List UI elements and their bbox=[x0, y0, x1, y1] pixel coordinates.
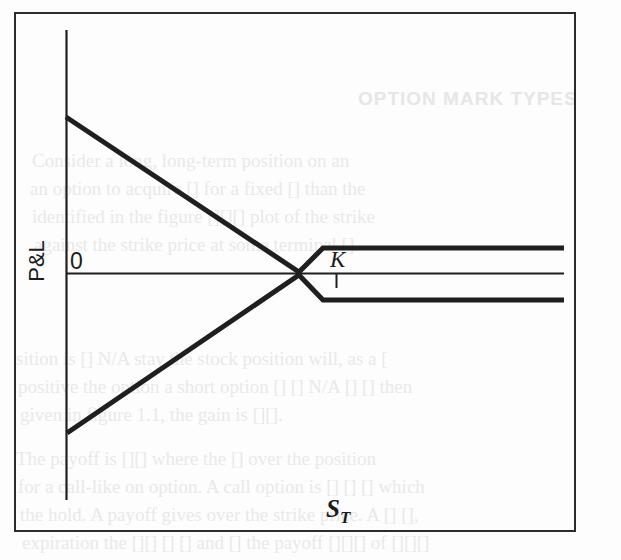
x-axis-label-main: S bbox=[326, 495, 340, 522]
x-axis-label-subscript: T bbox=[340, 508, 350, 527]
series-long-option-payoff bbox=[67, 275, 564, 433]
y-axis-label: P&L bbox=[26, 221, 48, 301]
strike-label: K bbox=[330, 248, 345, 271]
origin-label: 0 bbox=[70, 250, 83, 273]
x-axis-label: ST bbox=[326, 496, 350, 530]
payoff-chart bbox=[0, 0, 621, 560]
series-short-option-payoff bbox=[66, 117, 564, 272]
figure-page: OPTION MARK TYPES Consider a long, long-… bbox=[0, 0, 621, 560]
